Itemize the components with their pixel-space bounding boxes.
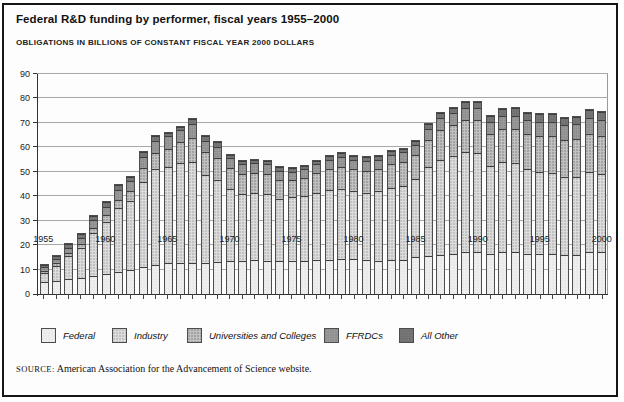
bar-slot-1976 xyxy=(298,74,310,294)
universities-and-colleges-segment xyxy=(561,140,568,177)
federal-segment xyxy=(437,255,444,294)
federal-segment xyxy=(375,261,382,294)
industry-segment xyxy=(338,189,345,259)
bar-1997 xyxy=(560,117,569,294)
bar-slot-1977 xyxy=(311,74,323,294)
x-axis-tick xyxy=(80,294,81,299)
x-axis-tick xyxy=(130,294,131,299)
ffrdcs-segment xyxy=(549,122,556,137)
ffrdcs-segment xyxy=(350,160,357,170)
x-axis-tick xyxy=(552,294,553,299)
federal-segment xyxy=(313,260,320,294)
universities-and-colleges-segment xyxy=(536,136,543,171)
ffrdcs-segment xyxy=(412,145,419,155)
industry-segment xyxy=(388,188,395,260)
bar-1977 xyxy=(312,160,321,294)
source-line: SOURCE: American Association for the Adv… xyxy=(16,363,312,374)
y-tick-label: 30 xyxy=(10,216,30,226)
federal-segment xyxy=(65,279,72,294)
bar-slot-1975 xyxy=(286,74,298,294)
bar-slot-1978 xyxy=(323,74,335,294)
all-other-segment xyxy=(499,109,506,116)
bar-slot-1988 xyxy=(447,74,459,294)
ffrdcs-segment xyxy=(437,118,444,130)
industry-segment xyxy=(437,160,444,255)
ffrdcs-segment xyxy=(536,122,543,137)
bar-slot-1979 xyxy=(335,74,347,294)
legend-swatch-industry xyxy=(112,328,127,343)
bar-slot-1997 xyxy=(558,74,570,294)
universities-and-colleges-segment xyxy=(103,215,110,222)
federal-segment xyxy=(214,262,221,294)
industry-segment xyxy=(140,182,147,268)
federal-segment xyxy=(363,260,370,294)
federal-segment xyxy=(227,261,234,294)
universities-and-colleges-segment xyxy=(115,200,122,209)
y-axis-tick xyxy=(33,220,37,221)
bar-1963 xyxy=(139,151,148,294)
bar-slot-1967 xyxy=(187,74,199,294)
x-axis-tick xyxy=(192,294,193,299)
bar-1993 xyxy=(511,107,520,294)
bar-slot-1969 xyxy=(211,74,223,294)
bar-1972 xyxy=(250,159,259,294)
y-tick-label: 60 xyxy=(10,142,30,152)
all-other-segment xyxy=(598,112,605,121)
universities-and-colleges-segment xyxy=(499,129,506,162)
federal-segment xyxy=(326,260,333,294)
bar-slot-1987 xyxy=(435,74,447,294)
federal-segment xyxy=(90,276,97,294)
y-axis-tick xyxy=(33,97,37,98)
federal-segment xyxy=(239,261,246,294)
x-tick-label: 2000 xyxy=(587,234,617,244)
ffrdcs-segment xyxy=(103,207,110,215)
bar-1988 xyxy=(449,107,458,294)
x-axis-tick xyxy=(453,294,454,299)
universities-and-colleges-segment xyxy=(586,134,593,172)
all-other-segment xyxy=(573,117,580,124)
ffrdcs-segment xyxy=(512,116,519,129)
ffrdcs-segment xyxy=(264,164,271,174)
legend-item-all-other: All Other xyxy=(399,327,458,343)
federal-segment xyxy=(536,254,543,294)
bar-slot-1964 xyxy=(150,74,162,294)
industry-segment xyxy=(276,199,283,261)
x-axis-tick xyxy=(478,294,479,299)
all-other-segment xyxy=(549,114,556,121)
bar-1994 xyxy=(523,112,532,294)
ffrdcs-segment xyxy=(487,122,494,134)
bar-slot-1995 xyxy=(534,74,546,294)
bar-slot-1965 xyxy=(162,74,174,294)
industry-segment xyxy=(189,162,196,263)
bar-1996 xyxy=(548,113,557,294)
bar-slot-1963 xyxy=(137,74,149,294)
bar-1959 xyxy=(89,215,98,294)
x-axis-tick xyxy=(93,294,94,299)
legend-item-ffrdcs: FFRDCs xyxy=(324,327,383,343)
ffrdcs-segment xyxy=(227,158,234,168)
x-axis-tick xyxy=(354,294,355,299)
bar-slot-1984 xyxy=(397,74,409,294)
legend-label-all-other: All Other xyxy=(421,330,458,341)
federal-segment xyxy=(561,255,568,294)
bar-slot-1956 xyxy=(50,74,62,294)
bar-1968 xyxy=(201,135,210,294)
y-tick-label: 40 xyxy=(10,191,30,201)
industry-segment xyxy=(573,177,580,255)
x-axis-tick xyxy=(329,294,330,299)
x-axis-tick xyxy=(440,294,441,299)
ffrdcs-segment xyxy=(425,129,432,140)
universities-and-colleges-segment xyxy=(338,167,345,189)
bar-slot-1981 xyxy=(360,74,372,294)
legend-label-federal: Federal xyxy=(63,330,95,341)
federal-segment xyxy=(264,261,271,294)
universities-and-colleges-segment xyxy=(363,171,370,193)
industry-segment xyxy=(264,194,271,261)
ffrdcs-segment xyxy=(276,171,283,181)
federal-segment xyxy=(400,260,407,294)
x-axis-tick xyxy=(217,294,218,299)
y-axis-tick xyxy=(33,146,37,147)
universities-and-colleges-segment xyxy=(177,142,184,163)
bar-1962 xyxy=(126,176,135,294)
bar-slot-1966 xyxy=(174,74,186,294)
